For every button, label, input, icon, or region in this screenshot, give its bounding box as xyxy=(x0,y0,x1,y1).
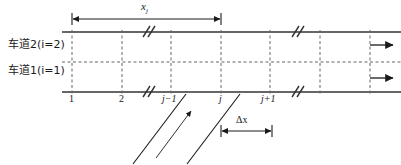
cell-boundary-lines xyxy=(72,30,370,94)
cell-label-2: 2 xyxy=(119,94,124,104)
dimension-label-xj: xj xyxy=(141,1,148,15)
diagonal-line-right xyxy=(187,94,240,164)
cell-label-j: j xyxy=(219,94,222,104)
cell-label-j-plus-1: j+1 xyxy=(261,94,276,104)
dimension-label-delta-x: Δx xyxy=(236,115,247,125)
cell-label-1: 1 xyxy=(69,94,74,104)
lane-label-lane2: 车道2(i=2) xyxy=(8,39,65,50)
cell-label-j-minus-1: j−1 xyxy=(162,94,177,104)
lane-label-lane1: 车道1(i=1) xyxy=(8,65,65,76)
road-discretization-diagram: 车道2(i=2) 车道1(i=1) 1 2 j−1 j j+1 xj Δx xyxy=(0,0,401,165)
dimension-delta-x xyxy=(221,125,272,137)
diagonal-reference-lines xyxy=(133,94,240,164)
diagram-canvas xyxy=(0,0,401,165)
diagonal-direction-arrow-icon xyxy=(156,111,191,158)
dimension-label-xj-subscript: j xyxy=(146,7,148,15)
